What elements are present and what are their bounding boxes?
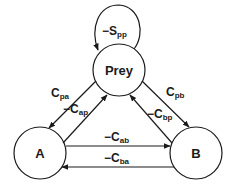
edge-label-cpa: Cpa [51, 86, 70, 101]
node-label-b: B [191, 146, 200, 161]
edge-label-cba: −Cba [104, 151, 130, 166]
edge-label-cpb: Cpb [166, 85, 185, 100]
edge-label-cbp: −Cbp [147, 107, 173, 122]
node-label-a: A [35, 146, 45, 161]
edge-label-cab: −Cab [104, 130, 129, 145]
edge-label-cap: −Cap [63, 102, 88, 117]
interaction-diagram: Prey A B −Spp Cpa −Cap Cpb −Cbp −Cab −Cb… [0, 0, 232, 189]
node-label-prey: Prey [105, 63, 134, 78]
edge-label-spp: −Spp [102, 24, 127, 39]
